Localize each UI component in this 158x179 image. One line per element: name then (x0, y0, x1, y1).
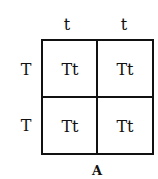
cell-r2-c1: Tt (43, 98, 97, 154)
cell-r2-c2: Tt (98, 98, 152, 154)
row-allele-2: T (18, 118, 34, 134)
column-allele-2: t (114, 17, 134, 33)
punnett-grid: Tt Tt Tt Tt (41, 39, 154, 155)
row-allele-1: T (18, 62, 34, 78)
cell-r1-c2: Tt (98, 41, 152, 97)
cell-r1-c1: Tt (43, 41, 97, 97)
column-allele-1: t (57, 17, 77, 33)
diagram-caption: A (88, 163, 106, 178)
